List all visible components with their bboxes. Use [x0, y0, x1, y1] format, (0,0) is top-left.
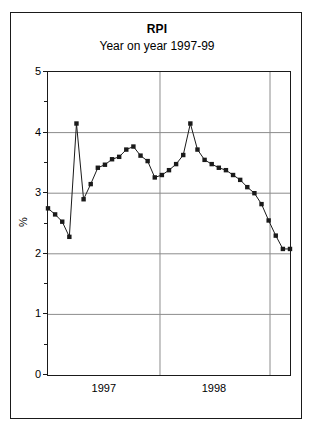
data-point-marker [181, 153, 185, 157]
data-point-marker [210, 162, 214, 166]
data-point-marker [231, 173, 235, 177]
y-tick-label: 3 [17, 187, 41, 198]
data-point-marker [245, 185, 249, 189]
data-point-marker [195, 147, 199, 151]
data-point-marker [81, 197, 85, 201]
data-point-marker [96, 166, 100, 170]
data-point-marker [238, 178, 242, 182]
data-point-marker [259, 202, 263, 206]
data-point-marker [60, 219, 64, 223]
data-point-marker [89, 182, 93, 186]
plot-area [47, 71, 291, 376]
y-tick-label: 4 [17, 127, 41, 138]
data-point-marker [145, 159, 149, 163]
y-tick-label: 1 [17, 308, 41, 319]
data-point-marker [67, 235, 71, 239]
data-point-marker [46, 206, 50, 210]
data-point-marker [117, 155, 121, 159]
data-point-marker [274, 233, 278, 237]
data-point-marker [266, 218, 270, 222]
series-line [48, 124, 290, 249]
y-axis-title: % [17, 217, 29, 227]
data-point-marker [288, 247, 292, 251]
rpi-series [48, 72, 290, 375]
data-point-marker [103, 163, 107, 167]
data-point-marker [74, 121, 78, 125]
data-point-marker [160, 173, 164, 177]
data-point-marker [188, 121, 192, 125]
x-tick-label: 1997 [74, 382, 134, 394]
data-point-marker [202, 158, 206, 162]
chart-subtitle: Year on year 1997-99 [11, 39, 303, 53]
data-point-marker [53, 212, 57, 216]
chart-title: RPI [11, 23, 303, 36]
figure-frame: RPI Year on year 1997-99 % 012345 199719… [10, 12, 302, 419]
data-point-marker [124, 147, 128, 151]
data-point-marker [138, 153, 142, 157]
y-tick-label: 2 [17, 248, 41, 259]
data-point-marker [281, 247, 285, 251]
data-point-marker [110, 157, 114, 161]
data-point-marker [131, 144, 135, 148]
data-point-marker [174, 162, 178, 166]
y-tick-label: 0 [17, 369, 41, 380]
data-point-marker [167, 168, 171, 172]
data-point-marker [217, 166, 221, 170]
data-point-marker [153, 175, 157, 179]
y-tick-label: 5 [17, 66, 41, 77]
data-point-marker [252, 191, 256, 195]
x-tick-label: 1998 [184, 382, 244, 394]
data-point-marker [224, 168, 228, 172]
